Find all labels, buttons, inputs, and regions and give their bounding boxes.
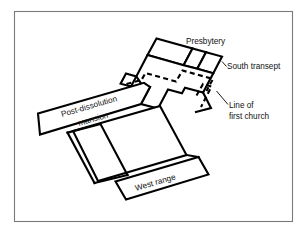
east-range-link [187, 155, 199, 157]
south-transept-leader [222, 62, 227, 67]
figure-container: Presbytery South transept Line of first … [0, 0, 305, 239]
label-south-transept: South transept [227, 62, 281, 71]
label-line-of-first-church-line1: Line of [229, 101, 254, 110]
plan-geometry [38, 39, 228, 200]
label-line-of-first-church-line2: first church [229, 112, 269, 121]
line-of-first-church-leader [217, 91, 229, 105]
label-presbytery: Presbytery [186, 37, 226, 46]
abbey-plan-drawing: Presbytery South transept Line of first … [0, 0, 305, 239]
church-south-return [196, 93, 211, 112]
